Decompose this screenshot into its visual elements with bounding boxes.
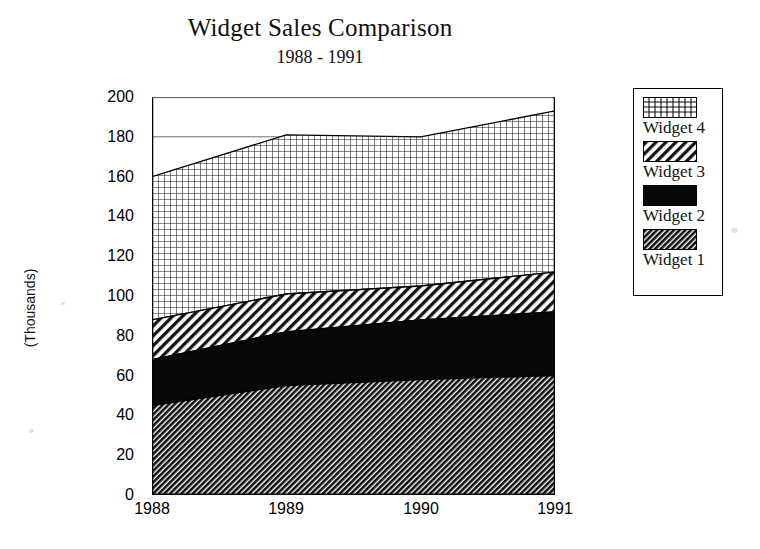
scan-speck: [61, 302, 65, 305]
legend: Widget 4 Widget 3: [633, 88, 723, 296]
x-tick-label-1990: 1990: [381, 500, 461, 518]
legend-label-widget-2: Widget 2: [643, 207, 722, 225]
plot-area: [152, 97, 555, 495]
x-tick-label-1989: 1989: [246, 500, 326, 518]
legend-swatch-dense-diagonal-hatch-icon: [643, 229, 697, 250]
y-tick-label-120: 120: [78, 248, 134, 264]
legend-swatch-cross-hatch-grid-icon: [643, 97, 697, 118]
scan-speck: [29, 429, 34, 433]
y-tick-label-20: 20: [78, 447, 134, 463]
chart-subtitle: 1988 - 1991: [0, 47, 640, 68]
legend-label-widget-4: Widget 4: [643, 119, 722, 137]
y-tick-label-200: 200: [78, 89, 134, 105]
legend-swatch-light-diagonal-hatch-icon: [643, 141, 697, 162]
y-tick-label-100: 100: [78, 288, 134, 304]
legend-label-widget-3: Widget 3: [643, 163, 722, 181]
chart-title: Widget Sales Comparison: [0, 14, 640, 42]
scan-speck: [731, 228, 738, 233]
y-tick-label-60: 60: [78, 368, 134, 384]
x-tick-label-1988: 1988: [112, 500, 192, 518]
y-axis-title: (Thousands): [22, 238, 38, 378]
y-tick-label-160: 160: [78, 169, 134, 185]
legend-label-widget-1: Widget 1: [643, 251, 722, 269]
legend-item-widget-4[interactable]: Widget 4: [643, 97, 722, 137]
legend-item-widget-2[interactable]: Widget 2: [643, 185, 722, 225]
light-diagonal-hatch-icon: [644, 142, 696, 161]
cross-hatch-grid-icon: [644, 98, 696, 117]
chart-page: Widget Sales Comparison 1988 - 1991 (Tho…: [0, 0, 760, 549]
legend-swatch-solid-black-icon: [643, 185, 697, 206]
x-tick-label-1991: 1991: [515, 500, 595, 518]
axis-frame: [152, 97, 555, 495]
legend-item-widget-3[interactable]: Widget 3: [643, 141, 722, 181]
y-tick-label-140: 140: [78, 208, 134, 224]
y-tick-label-40: 40: [78, 407, 134, 423]
y-tick-label-80: 80: [78, 328, 134, 344]
solid-black-icon: [644, 186, 696, 205]
y-tick-label-180: 180: [78, 129, 134, 145]
legend-item-widget-1[interactable]: Widget 1: [643, 229, 722, 269]
dense-diagonal-hatch-icon: [644, 230, 696, 249]
